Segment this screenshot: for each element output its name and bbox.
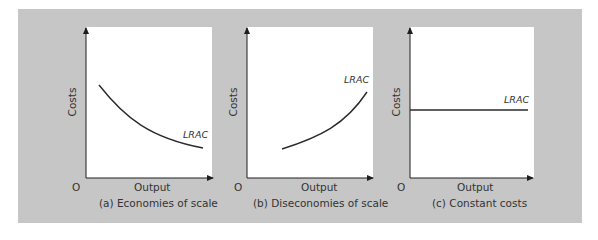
panel-b-plot-area xyxy=(247,27,373,178)
panel-b-plot xyxy=(247,27,373,178)
panel-b-origin-label: O xyxy=(234,181,242,193)
panel-c-y-label: Costs xyxy=(390,88,402,117)
panel-b-lrac-label: LRAC xyxy=(344,74,369,85)
panel-a-caption: (a) Economies of scale xyxy=(99,197,218,209)
panel-a-y-label: Costs xyxy=(66,88,78,117)
panel-b-caption: (b) Diseconomies of scale xyxy=(253,197,388,209)
panel-b-y-label: Costs xyxy=(227,88,239,117)
panel-c-origin-label: O xyxy=(397,181,405,193)
panel-a-plot xyxy=(86,27,213,178)
panel-a-x-label: Output xyxy=(134,181,170,193)
panel-a-origin-label: O xyxy=(72,181,80,193)
panel-c-x-label: Output xyxy=(457,181,493,193)
panel-b-x-label: Output xyxy=(301,181,337,193)
panel-a-lrac-label: LRAC xyxy=(183,129,208,140)
panel-c-caption: (c) Constant costs xyxy=(432,197,527,209)
panel-a-plot-area xyxy=(86,27,212,178)
panel-c-lrac-label: LRAC xyxy=(504,94,529,105)
